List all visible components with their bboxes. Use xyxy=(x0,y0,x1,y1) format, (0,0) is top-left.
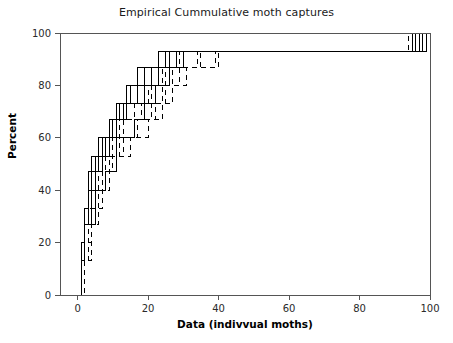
ecdf-curve xyxy=(78,33,430,295)
ecdf-curve xyxy=(78,33,430,295)
x-tick-label: 20 xyxy=(142,303,155,314)
x-tick-label: 40 xyxy=(212,303,225,314)
chart-figure: Empirical Cummulative moth captures Perc… xyxy=(0,0,453,343)
y-tick-label: 0 xyxy=(45,290,51,301)
ecdf-curves xyxy=(78,33,430,295)
ecdf-curve xyxy=(78,33,430,295)
ecdf-curve xyxy=(78,33,430,295)
x-tick-label: 100 xyxy=(420,303,439,314)
axes xyxy=(60,33,430,295)
plot-area: 020406080100020406080100 xyxy=(0,0,453,343)
x-tick-label: 60 xyxy=(283,303,296,314)
y-tick-label: 100 xyxy=(32,28,51,39)
ecdf-curve xyxy=(78,33,430,295)
y-tick-label: 40 xyxy=(38,185,51,196)
ecdf-curve xyxy=(78,33,430,295)
ecdf-curve xyxy=(78,33,430,295)
y-tick-label: 20 xyxy=(38,237,51,248)
ecdf-curve xyxy=(78,33,430,295)
x-tick-label: 80 xyxy=(353,303,366,314)
ecdf-curve xyxy=(78,33,430,295)
ecdf-curve xyxy=(78,33,430,295)
y-tick-label: 80 xyxy=(38,80,51,91)
axis-ticks: 020406080100020406080100 xyxy=(32,28,440,315)
y-tick-label: 60 xyxy=(38,132,51,143)
ecdf-curve xyxy=(78,33,430,295)
ecdf-curve xyxy=(78,33,430,295)
x-tick-label: 0 xyxy=(74,303,80,314)
